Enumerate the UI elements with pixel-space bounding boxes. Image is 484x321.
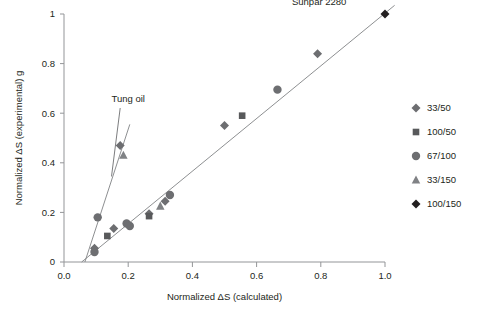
x-axis-ticks: 0.00.20.40.60.81.0 — [57, 262, 391, 281]
legend-label: 33/150 — [427, 174, 456, 185]
x-tick-label: 0.6 — [250, 270, 263, 281]
y-tick-label: 0.8 — [42, 58, 55, 69]
data-point — [220, 121, 229, 130]
annotation-tung-oil: Tung oil — [111, 93, 144, 104]
scatter-chart: 00.20.40.60.81 0.00.20.40.60.81.0 Normal… — [0, 0, 484, 321]
data-point — [146, 213, 153, 220]
y-tick-label: 0.4 — [42, 157, 55, 168]
axes-group — [64, 14, 385, 262]
series-33-150 — [119, 151, 164, 210]
chart-legend: 33/50100/5067/10033/150100/150 — [412, 102, 462, 209]
data-point — [104, 233, 111, 240]
x-tick-label: 0.2 — [122, 270, 135, 281]
y-tick-label: 0.2 — [42, 207, 55, 218]
x-tick-label: 0.8 — [314, 270, 327, 281]
x-axis-label: Normalized ΔS (calculated) — [167, 291, 282, 302]
legend-marker-circle — [412, 152, 420, 160]
y-tick-label: 1 — [50, 8, 55, 19]
legend-item-33-150[interactable]: 33/150 — [412, 174, 456, 185]
x-tick-label: 0.0 — [57, 270, 70, 281]
legend-item-100-150[interactable]: 100/150 — [412, 198, 462, 209]
x-tick-label: 0.4 — [186, 270, 199, 281]
y-tick-label: 0.6 — [42, 108, 55, 119]
data-point — [94, 213, 102, 221]
data-point — [90, 248, 98, 256]
data-point — [126, 222, 134, 230]
legend-label: 100/150 — [427, 198, 461, 209]
legend-label: 100/50 — [427, 126, 456, 137]
data-point — [239, 112, 246, 119]
data-point — [273, 85, 281, 93]
legend-item-67-100[interactable]: 67/100 — [412, 150, 456, 161]
data-point — [313, 49, 322, 58]
data-point — [116, 141, 125, 150]
legend-item-33-50[interactable]: 33/50 — [412, 102, 451, 113]
chart-canvas: 00.20.40.60.81 0.00.20.40.60.81.0 Normal… — [0, 0, 484, 321]
series-67-100 — [90, 85, 281, 256]
legend-item-100-50[interactable]: 100/50 — [413, 126, 456, 137]
legend-marker-square — [413, 129, 420, 136]
y-axis-ticks: 00.20.40.60.81 — [42, 8, 64, 267]
legend-marker-diamond — [412, 200, 421, 209]
data-point — [109, 224, 118, 233]
data-point — [166, 191, 174, 199]
legend-marker-triangle — [412, 175, 420, 183]
x-tick-label: 1.0 — [378, 270, 391, 281]
annotations-group: Tung oilSunpar 2280 — [111, 0, 346, 104]
annotation-sunpar: Sunpar 2280 — [292, 0, 346, 7]
y-axis-label: Normalized ΔS (experimental) g — [13, 71, 24, 206]
y-tick-label: 0 — [50, 256, 55, 267]
legend-label: 67/100 — [427, 150, 456, 161]
legend-marker-diamond — [412, 104, 421, 113]
legend-label: 33/50 — [427, 102, 451, 113]
